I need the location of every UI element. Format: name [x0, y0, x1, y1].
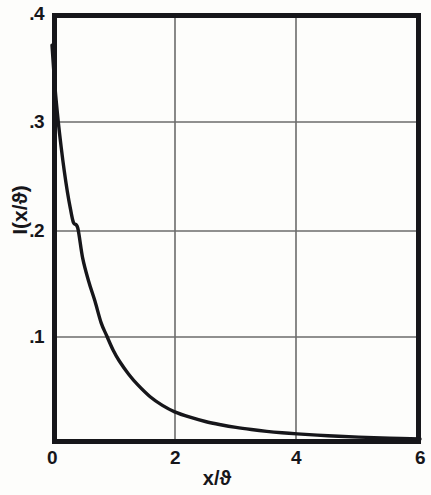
- y-tick-label-0.1: .1: [4, 326, 44, 348]
- data-curve-series-0: [52, 45, 420, 439]
- plot-canvas: [0, 0, 431, 495]
- figure-container: .4 .3 .2 .1 0 2 4 6 I(x/ϑ) x/ϑ: [0, 0, 431, 495]
- x-tick-label-4: 4: [282, 447, 310, 469]
- gridlines-group: [54, 15, 419, 441]
- x-tick-label-6: 6: [406, 447, 431, 469]
- x-axis-label: x/ϑ: [162, 467, 272, 490]
- x-tick-label-0: 0: [38, 447, 66, 469]
- x-tick-label-2: 2: [161, 447, 189, 469]
- y-tick-label-0.3: .3: [4, 111, 44, 133]
- y-axis-label: I(x/ϑ): [8, 160, 32, 260]
- plot-frame: [55, 16, 419, 442]
- y-tick-label-0.4: .4: [4, 3, 44, 25]
